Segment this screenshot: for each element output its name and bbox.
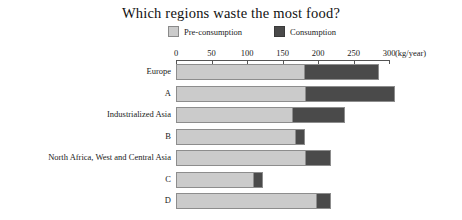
bar-segment-pre-consumption — [177, 130, 296, 144]
legend-swatch-consumption-icon — [274, 26, 285, 37]
category-label: North Africa, West and Central Asia — [0, 150, 176, 164]
category-label: C — [0, 172, 176, 186]
x-axis-tick-label: 50 — [207, 48, 216, 58]
legend-item-consumption: Consumption — [274, 26, 336, 37]
chart-row: C — [0, 172, 462, 186]
bar-segment-consumption — [304, 65, 378, 79]
chart-row: North Africa, West and Central Asia — [0, 150, 462, 164]
bar-segment-pre-consumption — [177, 173, 254, 187]
bar-segment-consumption — [316, 194, 330, 208]
stacked-bar — [176, 86, 395, 102]
food-waste-bar-chart: Which regions waste the most food? Pre-c… — [0, 0, 462, 220]
bar-segment-pre-consumption — [177, 194, 317, 208]
bar-segment-pre-consumption — [177, 108, 293, 122]
x-axis-tick-label: 0 — [174, 48, 178, 58]
x-axis-tick-label: 100 — [241, 48, 254, 58]
x-axis-tick-label: 250 — [347, 48, 360, 58]
stacked-bar — [176, 150, 331, 166]
category-label: B — [0, 129, 176, 143]
stacked-bar — [176, 107, 345, 123]
category-label: D — [0, 193, 176, 207]
legend-spacer — [242, 31, 274, 32]
stacked-bar — [176, 129, 305, 145]
category-label: A — [0, 86, 176, 100]
bar-segment-consumption — [305, 151, 329, 165]
chart-row: B — [0, 129, 462, 143]
x-axis-tick-label: 200 — [312, 48, 325, 58]
bar-segment-consumption — [295, 130, 305, 144]
bar-segment-consumption — [253, 173, 263, 187]
stacked-bar — [176, 64, 379, 80]
bar-segment-consumption — [292, 108, 344, 122]
legend-label-consumption: Consumption — [290, 27, 336, 37]
x-axis-unit-label: (kg/year) — [395, 48, 426, 58]
category-label: Europe — [0, 64, 176, 78]
legend-label-pre-consumption: Pre-consumption — [184, 27, 242, 37]
stacked-bar — [176, 172, 263, 188]
bar-segment-pre-consumption — [177, 151, 306, 165]
chart-legend: Pre-consumption Consumption — [168, 26, 336, 37]
x-axis-tick-label: 150 — [276, 48, 289, 58]
x-axis-tick-label: 300 — [383, 48, 396, 58]
bar-segment-pre-consumption — [177, 65, 305, 79]
bar-segment-pre-consumption — [177, 87, 306, 101]
chart-row: A — [0, 86, 462, 100]
chart-title: Which regions waste the most food? — [0, 5, 462, 22]
legend-swatch-pre-consumption-icon — [168, 26, 179, 37]
category-label: Industrialized Asia — [0, 107, 176, 121]
x-axis: 050100150200250300 (kg/year) — [176, 60, 389, 61]
chart-row: Industrialized Asia — [0, 107, 462, 121]
chart-row: D — [0, 193, 462, 207]
bar-segment-consumption — [305, 87, 394, 101]
stacked-bar — [176, 193, 331, 209]
legend-item-pre-consumption: Pre-consumption — [168, 26, 242, 37]
chart-row: Europe — [0, 64, 462, 78]
